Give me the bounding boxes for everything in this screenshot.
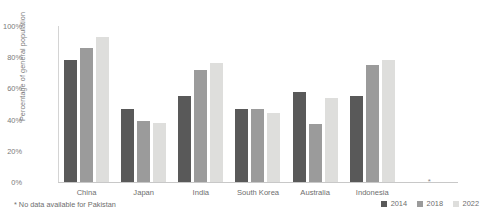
bar-2018[interactable]	[137, 121, 150, 182]
bar-2022[interactable]	[325, 98, 338, 182]
plot-area: 100%80%60%40%20%0% ChinaJapanIndiaSouth …	[58, 26, 458, 182]
x-tick-label: India	[172, 188, 229, 197]
bar-group: Indonesia	[344, 26, 401, 182]
bar-2014[interactable]	[350, 96, 363, 182]
bar-2018[interactable]	[80, 48, 93, 182]
bar-2022[interactable]	[267, 113, 280, 182]
x-axis-line	[58, 182, 458, 183]
x-tick-label: China	[58, 188, 115, 197]
legend-label: 2014	[391, 199, 407, 208]
bar-group: *	[401, 26, 458, 182]
bar-2018[interactable]	[366, 65, 379, 182]
bar-group: China	[58, 26, 115, 182]
bar-2014[interactable]	[293, 92, 306, 182]
legend-label: 2018	[427, 199, 443, 208]
bar-group: Japan	[115, 26, 172, 182]
legend-swatch-icon	[453, 201, 459, 207]
bar-2014[interactable]	[235, 109, 248, 182]
bar-group: India	[172, 26, 229, 182]
x-tick-label: Indonesia	[344, 188, 401, 197]
pakistan-missing-marker: *	[428, 178, 431, 186]
bar-2018[interactable]	[309, 124, 322, 182]
bar-group: Australia	[287, 26, 344, 182]
bar-groups: ChinaJapanIndiaSouth KoreaAustraliaIndon…	[58, 26, 458, 182]
y-tick-label: 0%	[0, 178, 22, 187]
y-tick-label: 40%	[0, 115, 22, 124]
legend-label: 2022	[463, 199, 479, 208]
y-tick-label: 100%	[0, 22, 22, 31]
x-tick-label: South Korea	[229, 188, 286, 197]
bar-2014[interactable]	[178, 96, 191, 182]
bar-2014[interactable]	[64, 60, 77, 182]
legend-item-2018[interactable]: 2018	[417, 199, 443, 208]
bar-2022[interactable]	[210, 63, 223, 182]
chart-legend: 201420182022	[381, 199, 479, 208]
legend-swatch-icon	[381, 201, 387, 207]
bar-group: South Korea	[229, 26, 286, 182]
legend-item-2014[interactable]: 2014	[381, 199, 407, 208]
y-tick-label: 80%	[0, 53, 22, 62]
chart-footnote: * No data available for Pakistan	[14, 200, 116, 209]
bar-2022[interactable]	[153, 123, 166, 182]
x-tick-label: Australia	[287, 188, 344, 197]
y-tick-label: 60%	[0, 84, 22, 93]
bar-2018[interactable]	[251, 109, 264, 182]
bar-2018[interactable]	[194, 70, 207, 182]
x-tick-label: Japan	[115, 188, 172, 197]
bar-chart: Percentage of general population 100%80%…	[0, 0, 489, 219]
bar-2022[interactable]	[382, 60, 395, 182]
bar-2022[interactable]	[96, 37, 109, 182]
legend-swatch-icon	[417, 201, 423, 207]
y-tick-label: 20%	[0, 146, 22, 155]
bar-2014[interactable]	[121, 109, 134, 182]
legend-item-2022[interactable]: 2022	[453, 199, 479, 208]
